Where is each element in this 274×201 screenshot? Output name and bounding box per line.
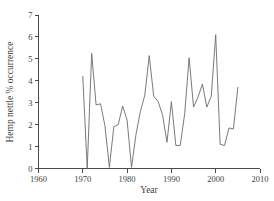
x-axis: 196019701980199020002010 bbox=[30, 169, 269, 184]
x-tick-label-1980: 1980 bbox=[119, 174, 136, 184]
y-axis-tick-labels: 01234567 bbox=[28, 10, 33, 174]
y-axis: 01234567 bbox=[28, 10, 38, 174]
x-tick-label-1960: 1960 bbox=[30, 174, 47, 184]
y-axis-ticks bbox=[35, 15, 39, 169]
y-tick-label-2: 2 bbox=[28, 120, 32, 130]
x-tick-label-2000: 2000 bbox=[207, 174, 224, 184]
x-axis-tick-labels: 196019701980199020002010 bbox=[30, 174, 269, 184]
y-tick-label-3: 3 bbox=[28, 98, 32, 108]
x-axis-title: Year bbox=[140, 185, 158, 195]
y-tick-label-5: 5 bbox=[28, 54, 32, 64]
x-axis-ticks bbox=[39, 169, 261, 173]
y-tick-label-1: 1 bbox=[28, 142, 32, 152]
y-tick-label-0: 0 bbox=[28, 164, 32, 174]
y-tick-label-4: 4 bbox=[28, 76, 33, 86]
data-series-line bbox=[83, 35, 238, 169]
chart-figure: 01234567 196019701980199020002010 Year H… bbox=[0, 0, 274, 201]
x-tick-label-2010: 2010 bbox=[252, 174, 269, 184]
x-tick-label-1990: 1990 bbox=[163, 174, 180, 184]
y-axis-title: Hemp nettle % occurrence bbox=[5, 41, 15, 142]
y-tick-label-6: 6 bbox=[28, 32, 32, 42]
line-chart: 01234567 196019701980199020002010 Year H… bbox=[0, 0, 274, 201]
x-tick-label-1970: 1970 bbox=[74, 174, 91, 184]
y-tick-label-7: 7 bbox=[28, 10, 32, 20]
